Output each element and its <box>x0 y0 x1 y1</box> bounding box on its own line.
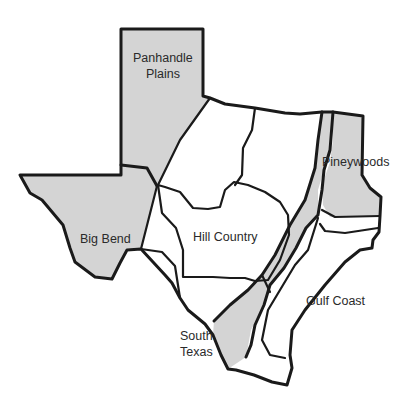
label-panhandle-plains-2: Plains <box>146 67 180 81</box>
border-north-central <box>235 108 255 185</box>
label-pineywoods: Pineywoods <box>322 155 389 169</box>
label-gulf-coast: Gulf Coast <box>306 294 366 308</box>
label-south-texas-2: Texas <box>180 345 213 359</box>
label-big-bend: Big Bend <box>80 232 131 246</box>
region-big-bend[interactable] <box>20 165 157 279</box>
border-gulf-north <box>320 224 378 233</box>
label-panhandle-plains-1: Panhandle <box>133 51 193 65</box>
label-hill-country: Hill Country <box>193 230 258 244</box>
label-south-texas-1: South <box>180 329 213 343</box>
texas-regions-map: Panhandle Plains Big Bend Hill Country P… <box>0 0 417 406</box>
